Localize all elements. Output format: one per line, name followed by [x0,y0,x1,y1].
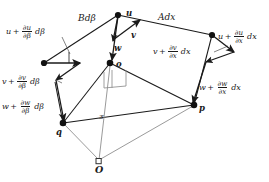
node-o [107,60,114,67]
node-origin [96,159,101,164]
w-beta-op: + [9,103,19,111]
v-x-op: + [158,48,168,56]
u-beta-tail: dβ [33,28,45,36]
label-w-partial-beta: w + ∂w ∂β dβ [2,99,44,114]
label-node-origin: O [95,165,103,175]
label-v-partial-beta: v + ∂v ∂β dβ [2,74,40,89]
w-x-tail: dx [229,84,241,92]
origin-rays [64,66,193,160]
edge-q-to-p [63,105,194,123]
node-q [60,120,67,127]
vector-w-beta [56,80,64,121]
w-beta-tail: dβ [32,103,44,111]
v-beta-op: + [7,78,17,86]
w-beta-denominator: ∂β [21,106,31,114]
node-markers [41,12,215,164]
leader-u-beta [62,37,70,54]
label-w-partial-x: w + ∂w ∂x dx [199,80,241,95]
edge-left-to-q [55,82,63,123]
w-x-numerator: ∂w [217,80,229,87]
node-right [209,32,215,38]
w-x-fraction: ∂w ∂x [217,80,229,95]
v-x-numerator: ∂v [168,44,178,51]
v-x-fraction: ∂v ∂x [168,44,178,59]
label-z-axis: z [99,112,104,120]
u-x-op: + [223,33,233,41]
v-beta-denominator: ∂β [17,81,27,89]
u-beta-fraction: ∂u ∂β [22,24,32,39]
label-node-q: q [56,128,62,137]
b-dbeta-tail: dβ [85,14,96,23]
w-beta-numerator: ∂w [20,99,32,106]
edge-o-to-p [110,63,194,105]
label-u-partial-beta: u + ∂u ∂β dβ [6,24,45,39]
v-x-denominator: ∂x [168,51,178,59]
label-a-dx: Adx [158,13,175,22]
v-beta-tail: dβ [28,78,40,86]
ray-O-to-p [99,106,193,160]
node-left [41,60,47,66]
v-beta-numerator: ∂v [17,74,27,81]
u-beta-denominator: ∂β [22,31,32,39]
frame-edges [44,15,212,123]
u-x-tail: dx [245,33,257,41]
v-beta-fraction: ∂v ∂β [17,74,27,89]
u-beta-op: + [11,28,21,36]
u-x-denominator: ∂x [234,36,244,44]
leader-v-x [214,46,228,52]
w-x-op: + [206,84,216,92]
label-u-partial-x: u + ∂u ∂x dx [218,29,257,44]
label-v-partial-x: v + ∂v ∂x dx [153,44,190,59]
w-x-base: w [199,84,206,92]
vector-v-beta [56,63,80,80]
label-w-center: w [114,44,121,53]
label-node-p: p [199,104,205,113]
ray-O-to-q [64,124,99,160]
node-p [191,102,198,109]
w-beta-base: w [2,103,9,111]
displacement-vector-diagram: Bdβ Adx u v w o p q O z u + ∂u ∂β dβ [0,0,269,182]
a-dx-tail: dx [165,13,176,22]
b-dbeta-lead: B [78,14,85,23]
u-beta-numerator: ∂u [22,24,32,31]
left-node-vectors [44,52,80,121]
w-beta-fraction: ∂w ∂β [20,99,32,114]
node-top [115,12,121,18]
u-x-fraction: ∂u ∂x [234,29,244,44]
w-x-denominator: ∂x [218,87,228,95]
label-node-o: o [116,60,122,69]
vector-v-x [206,52,234,62]
label-b-dbeta: Bdβ [78,14,96,23]
u-x-numerator: ∂u [234,29,244,36]
label-v-center: v [131,31,136,40]
label-u-center: u [126,9,132,18]
v-x-tail: dx [179,48,191,56]
